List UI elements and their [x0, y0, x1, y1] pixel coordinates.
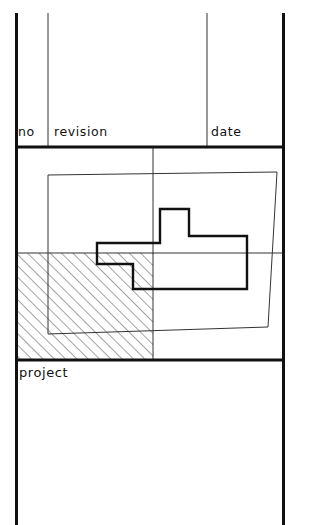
- technical-drawing-sheet: no revision date project: [0, 0, 309, 525]
- revision-column-header-no: no: [18, 126, 35, 139]
- project-label: project: [19, 366, 68, 379]
- drawing-canvas: [0, 0, 309, 525]
- revision-column-header-revision: revision: [54, 126, 108, 139]
- revision-column-header-date: date: [211, 126, 242, 139]
